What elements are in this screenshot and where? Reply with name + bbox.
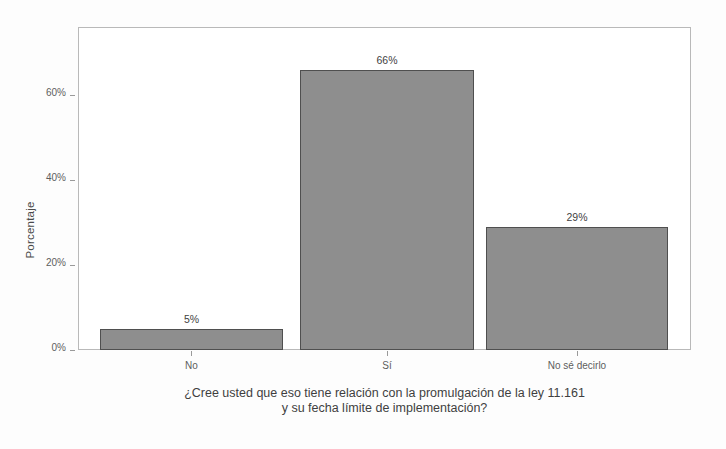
y-tick-mark	[70, 95, 75, 96]
x-axis-title: ¿Cree usted que eso tiene relación con l…	[78, 386, 691, 416]
x-tick-label: No	[102, 360, 282, 371]
bar-value-label: 5%	[112, 313, 272, 325]
x-axis-title-line-2: y su fecha límite de implementación?	[78, 401, 691, 416]
y-tick-label: 60%	[46, 87, 66, 98]
y-tick-label: 40%	[46, 172, 66, 183]
y-tick-mark	[70, 350, 75, 351]
bar-value-label: 29%	[497, 211, 657, 223]
y-tick-label: 0%	[52, 342, 66, 353]
y-tick-mark	[70, 180, 75, 181]
x-tick-mark	[577, 351, 578, 356]
x-axis-title-line-1: ¿Cree usted que eso tiene relación con l…	[78, 386, 691, 401]
x-tick-mark	[387, 351, 388, 356]
y-tick-label: 20%	[46, 257, 66, 268]
y-tick-mark	[70, 265, 75, 266]
bar	[100, 329, 283, 350]
x-tick-mark	[191, 351, 192, 356]
bar-chart-figure: Porcentaje 0%20%40%60% NoSíNo sé decirlo…	[0, 0, 726, 449]
y-axis-title: Porcentaje	[24, 155, 36, 305]
bar-value-label: 66%	[307, 54, 467, 66]
bar	[300, 70, 474, 351]
x-tick-label: Sí	[297, 360, 477, 371]
x-tick-label: No sé decirlo	[487, 360, 667, 371]
bar	[486, 227, 668, 350]
